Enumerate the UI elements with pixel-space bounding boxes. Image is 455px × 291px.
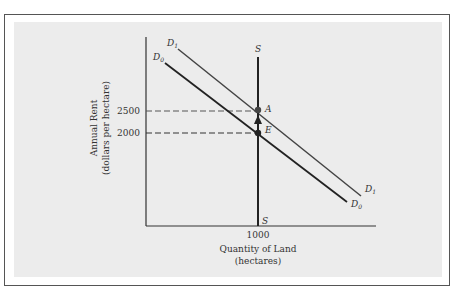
d1-top-label: D1 bbox=[166, 38, 178, 49]
d1-bottom-label: D1 bbox=[364, 184, 376, 195]
x-axis-label: Quantity of Land bbox=[220, 244, 297, 254]
x-axis-unit: (hectares) bbox=[235, 256, 281, 266]
y-tick-2500: 2500 bbox=[117, 106, 140, 116]
point-e bbox=[255, 130, 261, 136]
chart: S S A E D1 D0 D1 D0 2500 2000 1000 Quant… bbox=[0, 0, 455, 291]
point-a-label: A bbox=[264, 104, 272, 114]
s-bottom-label: S bbox=[262, 216, 268, 226]
d1-line bbox=[178, 49, 361, 196]
y-axis-label: Annual Rent bbox=[89, 99, 99, 157]
point-e-label: E bbox=[264, 125, 272, 135]
y-axis-unit: (dollars per hectare) bbox=[101, 81, 111, 175]
y-tick-2000: 2000 bbox=[117, 128, 140, 138]
d0-top-label: D0 bbox=[152, 52, 164, 63]
x-tick-1000: 1000 bbox=[247, 230, 270, 240]
d0-bottom-label: D0 bbox=[350, 199, 362, 210]
s-top-label: S bbox=[255, 44, 261, 54]
point-a bbox=[255, 107, 261, 113]
